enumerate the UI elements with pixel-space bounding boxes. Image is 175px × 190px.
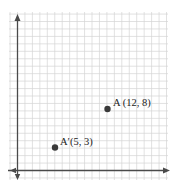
x-axis-left-arrow-icon (10, 168, 16, 173)
point-a-prime-label: A′(5, 3) (60, 136, 93, 148)
point-a-label: A (12, 8) (113, 97, 151, 109)
grid-lines (9, 12, 168, 180)
point-a (104, 106, 110, 112)
points: A (12, 8) A′(5, 3) (52, 97, 151, 151)
coordinate-plane: A (12, 8) A′(5, 3) (0, 0, 175, 190)
y-axis-up-arrow-icon (15, 14, 21, 21)
point-a-prime (52, 144, 58, 150)
y-axis-down-arrow-icon (15, 174, 20, 180)
